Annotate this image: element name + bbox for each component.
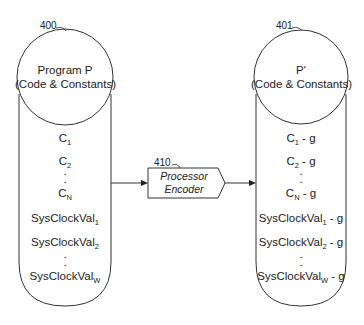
left-item-cn: CN (15, 187, 115, 200)
arrow-into-encoder (111, 180, 148, 186)
left-store-subtitle: (Code & Constants) (15, 78, 115, 91)
diagram-canvas: 400 401 410 Program P (Code & Constants)… (0, 0, 364, 325)
ref-410-leader (172, 164, 180, 168)
right-item-sysclockw: SysClockValW - g (251, 270, 351, 283)
encoder-label-line1: Processor (148, 170, 220, 183)
right-store-subtitle: (Code & Constants) (251, 78, 351, 91)
right-store-title: P' (251, 64, 351, 77)
encoder-label-line2: Encoder (148, 183, 220, 196)
right-ellipsis-2: . (251, 173, 351, 186)
left-item-sysclockw: SysClockValW (15, 270, 115, 283)
ref-401-label: 401 (276, 20, 293, 31)
ref-400-label: 400 (40, 20, 57, 31)
left-item-sysclock1: SysClockVal1 (15, 212, 115, 225)
left-store-title: Program P (15, 64, 115, 77)
left-ellipsis-2: . (15, 173, 115, 186)
right-item-sysclock1: SysClockVal1 - g (251, 212, 351, 225)
ref-410-label: 410 (154, 157, 171, 168)
right-item-cn: CN - g (251, 187, 351, 200)
left-item-c1: C1 (15, 132, 115, 145)
right-ellipsis-4: . (251, 256, 351, 269)
right-item-c1: C1 - g (251, 132, 351, 145)
left-ellipsis-4: . (15, 256, 115, 269)
